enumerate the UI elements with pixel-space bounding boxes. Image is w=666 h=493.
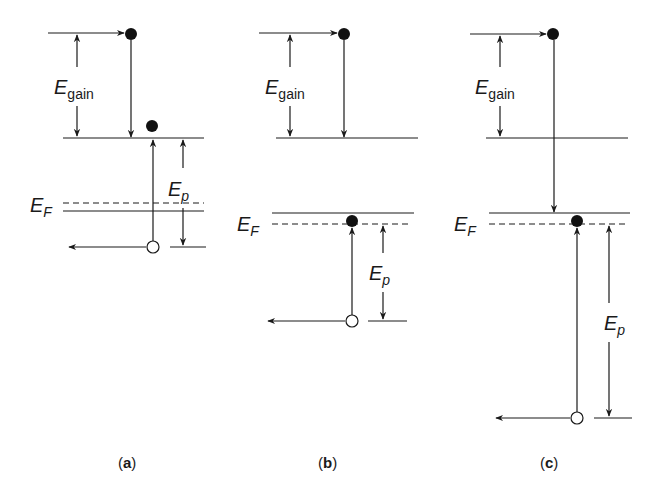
panel-c: Egain EF Ep (c) <box>454 28 632 471</box>
fermi-label: EF <box>454 213 477 239</box>
panel-b: Egain EF Ep (b) <box>237 28 418 471</box>
hole-circle <box>346 315 358 327</box>
hole-circle <box>147 241 159 253</box>
electron-dot <box>125 28 137 40</box>
gain-label: Egain <box>475 76 515 102</box>
ep-label: Ep <box>604 312 625 338</box>
panel-caption-a: (a) <box>118 454 136 471</box>
electron-dot <box>547 28 559 40</box>
energy-level-diagram: Egain EF Ep (a) Egain EF Ep (b) <box>0 0 666 493</box>
gain-label: Egain <box>265 76 305 102</box>
electron-dot <box>338 28 350 40</box>
panel-caption-b: (b) <box>318 454 337 471</box>
gain-label: Egain <box>54 76 94 102</box>
electron-at-fermi-dot <box>571 215 583 227</box>
ep-label: Ep <box>369 262 390 288</box>
hole-circle <box>571 412 583 424</box>
fermi-label: EF <box>237 213 260 239</box>
panel-a: Egain EF Ep (a) <box>30 28 206 471</box>
electron-at-fermi-dot <box>346 215 358 227</box>
excited-electron-dot <box>146 120 158 132</box>
ep-label: Ep <box>168 178 189 204</box>
fermi-label: EF <box>30 194 53 220</box>
panel-caption-c: (c) <box>540 454 558 471</box>
